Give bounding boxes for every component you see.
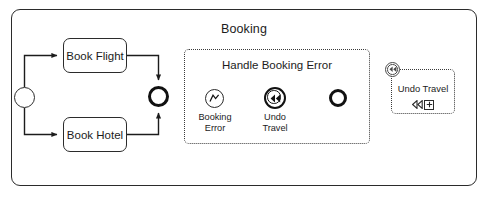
compensation-task-undo-travel[interactable]: Undo Travel [391, 69, 455, 114]
error-start-event[interactable] [205, 89, 224, 108]
error-bolt-icon [206, 90, 223, 107]
process-title: Booking [12, 22, 476, 36]
compensation-boundary-icon[interactable] [385, 62, 400, 77]
task-book-flight[interactable]: Book Flight [63, 38, 127, 73]
task-marker-group [392, 99, 454, 110]
compensation-rewind-glyph-icon [386, 63, 399, 76]
error-start-event-label: Booking Error [188, 112, 242, 133]
compensation-throw-event-label: Undo Travel [248, 112, 302, 133]
compensation-rewind-icon [266, 89, 284, 107]
compensation-rewind-icon [412, 99, 423, 110]
event-subprocess-title: Handle Booking Error [185, 59, 369, 71]
compensation-task-label: Undo Travel [392, 83, 454, 94]
compensation-throw-event[interactable] [264, 87, 286, 109]
end-event-handle-booking-error[interactable] [329, 89, 347, 107]
subprocess-expand-icon[interactable] [424, 100, 434, 110]
task-book-hotel[interactable]: Book Hotel [63, 117, 127, 152]
bpmn-diagram-canvas: Booking Book Flight Book Hotel [0, 0, 488, 197]
task-book-hotel-label: Book Hotel [67, 129, 123, 141]
task-book-flight-label: Book Flight [66, 50, 124, 62]
end-event-booking[interactable] [148, 86, 169, 107]
start-event[interactable] [14, 87, 35, 108]
